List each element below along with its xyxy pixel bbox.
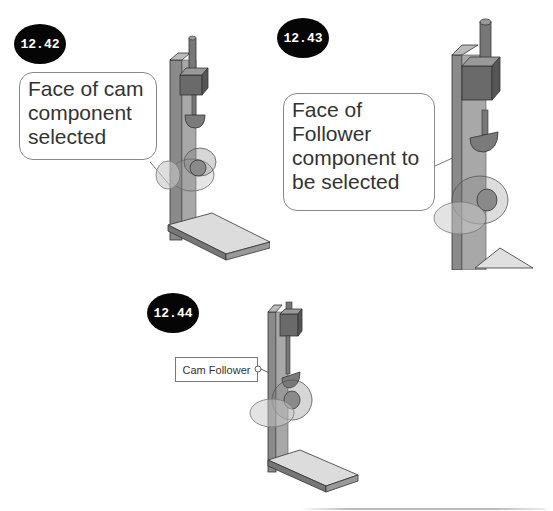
callout-line: component to	[292, 146, 426, 170]
callout-line: Face of cam	[28, 77, 148, 101]
figure-number: 12.42	[20, 37, 59, 52]
figure-number-badge: 12.44	[147, 293, 199, 333]
callout-line: Follower	[292, 122, 426, 146]
cam-assembly-drawing-2	[420, 0, 553, 270]
callout-line: be selected	[292, 170, 426, 194]
figure-number-badge: 12.42	[14, 24, 66, 64]
callout-cam-face: Face of cam component selected	[19, 72, 157, 160]
cam-assembly-drawing-3	[240, 290, 400, 500]
callout-line: selected	[28, 125, 148, 149]
figure-number-badge: 12.43	[277, 18, 329, 58]
bottom-rule	[300, 508, 545, 510]
figure-number: 12.44	[153, 306, 192, 321]
cam-assembly-drawing-1	[150, 20, 270, 270]
callout-follower-face: Face of Follower component to be selecte…	[283, 93, 435, 211]
callout-line: Face of	[292, 98, 426, 122]
figure-number: 12.43	[283, 31, 322, 46]
callout-line: component	[28, 101, 148, 125]
